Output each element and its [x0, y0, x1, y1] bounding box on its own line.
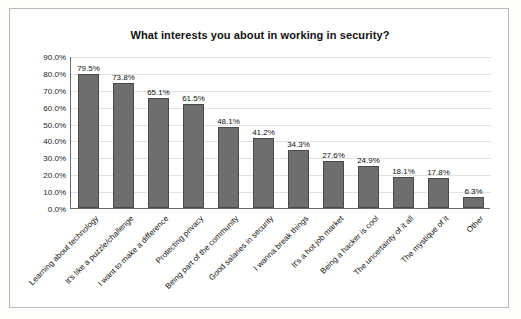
y-axis-tick-label: 0.0%: [22, 205, 66, 214]
bar-value-label: 48.1%: [211, 117, 247, 126]
bar-value-label: 79.5%: [71, 64, 107, 73]
y-axis-tick-label: 10.0%: [22, 188, 66, 197]
chart-bar: [183, 104, 204, 208]
bar-value-label: 6.3%: [456, 187, 492, 196]
gridline: [71, 57, 491, 58]
chart-plot-area: 79.5%73.8%65.1%61.5%48.1%41.2%34.3%27.6%…: [70, 57, 490, 209]
y-axis-tick-label: 30.0%: [22, 154, 66, 163]
screenshot-root: What interests you about in working in s…: [0, 0, 521, 319]
chart-bar: [218, 127, 239, 208]
gridline: [71, 125, 491, 126]
bar-value-label: 34.3%: [281, 140, 317, 149]
bar-value-label: 73.8%: [106, 73, 142, 82]
chart-bar: [463, 197, 484, 208]
gridline: [71, 91, 491, 92]
y-axis-tick-label: 50.0%: [22, 121, 66, 130]
chart-bar: [428, 178, 449, 208]
y-axis-tick-label: 70.0%: [22, 87, 66, 96]
gridline: [71, 108, 491, 109]
bar-value-label: 65.1%: [141, 88, 177, 97]
bar-value-label: 17.8%: [421, 168, 457, 177]
bar-value-label: 18.1%: [386, 167, 422, 176]
gridline: [71, 158, 491, 159]
y-axis-tick-labels: 90.0%80.0%70.0%60.0%50.0%40.0%30.0%20.0%…: [18, 57, 66, 209]
chart-bar: [113, 83, 134, 208]
bar-value-label: 41.2%: [246, 128, 282, 137]
chart-bar: [78, 74, 99, 208]
bar-value-label: 27.6%: [316, 151, 352, 160]
x-axis-category-labels: Learning about technologyIt's like a puz…: [70, 212, 490, 312]
y-axis-tick-label: 20.0%: [22, 171, 66, 180]
chart-bar: [288, 150, 309, 208]
y-axis-tick-label: 90.0%: [22, 53, 66, 62]
bar-value-label: 61.5%: [176, 94, 212, 103]
y-axis-tick-label: 60.0%: [22, 104, 66, 113]
chart-figure-frame: What interests you about in working in s…: [9, 8, 509, 308]
y-axis-tick-label: 80.0%: [22, 70, 66, 79]
y-axis-tick-label: 40.0%: [22, 137, 66, 146]
chart-bar: [323, 161, 344, 208]
chart-title: What interests you about in working in s…: [10, 29, 510, 41]
chart-bar: [358, 166, 379, 208]
chart-bar: [393, 177, 414, 208]
bar-value-label: 24.9%: [351, 156, 387, 165]
chart-bar: [253, 138, 274, 208]
chart-bar: [148, 98, 169, 208]
